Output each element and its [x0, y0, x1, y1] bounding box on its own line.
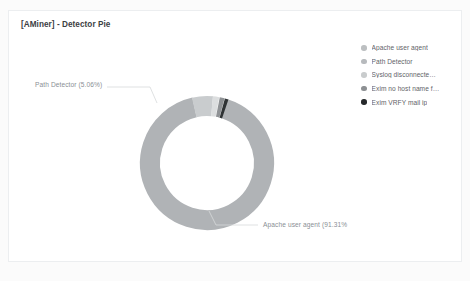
- chart-panel: [AMiner] - Detector Pie Path Detector (5…: [8, 10, 462, 262]
- callout-label-apache-user-agent: Apache user agent (91.31%: [263, 221, 347, 228]
- legend-swatch-icon: [361, 45, 367, 51]
- legend-item-label: Syslog disconnecte…: [372, 71, 436, 78]
- legend-item-label: Exim no host name f…: [372, 85, 440, 92]
- legend-item-exim-no-host-name[interactable]: Exim no host name f…: [361, 82, 461, 96]
- chart-area: Path Detector (5.06%) Apache user agent …: [9, 11, 463, 263]
- legend-item-path-detector[interactable]: Path Detector: [361, 55, 461, 69]
- legend-swatch-icon: [361, 72, 367, 78]
- legend-item-apache-user-agent[interactable]: Apache user agent: [361, 41, 461, 55]
- legend-item-exim-vrfy-mail-ip[interactable]: Exim VRFY mail ip: [361, 95, 461, 109]
- legend-swatch-icon: [361, 86, 367, 92]
- legend-item-label: Apache user agent: [372, 44, 428, 51]
- chart-legend: Apache user agent Path Detector Syslog d…: [361, 41, 461, 109]
- legend-item-label: Path Detector: [372, 58, 413, 65]
- legend-swatch-icon: [361, 99, 367, 105]
- legend-item-label: Exim VRFY mail ip: [372, 99, 428, 106]
- legend-swatch-icon: [361, 59, 367, 65]
- donut-slices: [135, 91, 279, 235]
- legend-item-syslog-disconnected[interactable]: Syslog disconnecte…: [361, 68, 461, 82]
- callout-label-path-detector: Path Detector (5.06%): [35, 81, 102, 88]
